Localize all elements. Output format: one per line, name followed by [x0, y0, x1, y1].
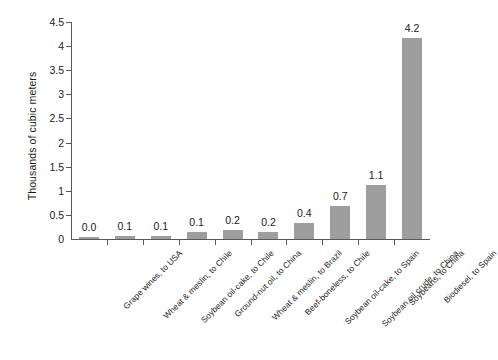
- y-axis-tick-label: 2.5: [30, 113, 64, 124]
- y-axis-tick-label: 2: [30, 138, 64, 149]
- y-axis-tick-label: 1: [30, 186, 64, 197]
- bar: [402, 38, 422, 239]
- x-axis-tick-mark: [286, 240, 287, 245]
- bar-value-label: 4.2: [388, 23, 436, 34]
- x-axis-tick-mark: [107, 240, 108, 245]
- bar: [151, 236, 171, 239]
- y-axis-tick-label: 0.5: [30, 210, 64, 221]
- y-axis-tick-label: 4.5: [30, 17, 64, 28]
- bar: [258, 232, 278, 239]
- x-axis-tick-mark: [358, 240, 359, 245]
- x-axis-tick-mark: [143, 240, 144, 245]
- bar: [187, 232, 207, 239]
- y-axis-tick-label: 1.5: [30, 162, 64, 173]
- x-axis-tick-mark: [179, 240, 180, 245]
- x-axis-tick-mark: [394, 240, 395, 245]
- bar: [294, 223, 314, 239]
- x-axis-tick-mark: [251, 240, 252, 245]
- bar-value-label: 0.7: [316, 191, 364, 202]
- bar-value-label: 0.4: [280, 208, 328, 219]
- bar: [79, 237, 99, 239]
- bar: [330, 206, 350, 239]
- bar: [115, 236, 135, 239]
- bar-value-label: 1.1: [352, 170, 400, 181]
- x-axis-tick-mark: [322, 240, 323, 245]
- y-axis-tick-label: 3.5: [30, 65, 64, 76]
- y-axis-tick-label: 3: [30, 89, 64, 100]
- bar: [223, 230, 243, 239]
- y-axis-tick-label: 0: [30, 234, 64, 245]
- x-axis-tick-mark: [215, 240, 216, 245]
- bar: [366, 185, 386, 239]
- y-axis-line: [71, 22, 72, 240]
- y-axis-tick-label: 4: [30, 41, 64, 52]
